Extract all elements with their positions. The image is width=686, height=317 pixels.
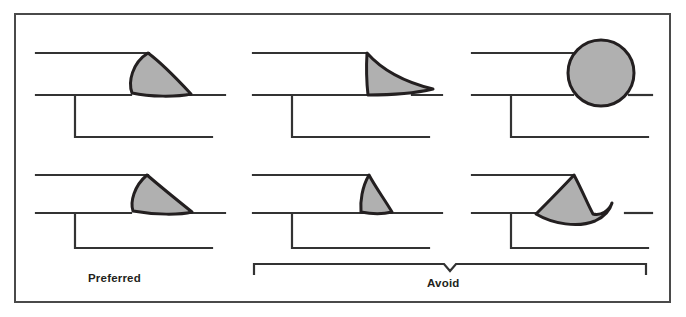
panel-1-joint-lines (36, 53, 225, 137)
bead-narrow-undersized-fillet (361, 175, 392, 214)
panel-5-joint-lines (253, 175, 442, 248)
diagram-artwork (0, 0, 686, 317)
bead-convex-rounded-fillet (131, 53, 191, 96)
avoid-bracket (254, 264, 646, 274)
bead-overlap-undercut-bead (536, 175, 612, 225)
label-preferred: Preferred (88, 272, 141, 284)
bead-concave-undersized-fillet (367, 53, 433, 95)
diagram-canvas: Preferred Avoid (0, 0, 686, 317)
label-avoid: Avoid (427, 277, 460, 289)
panel-4-joint-lines (36, 175, 225, 248)
bead-flat-fillet (132, 175, 192, 214)
panel-2-joint-lines (253, 53, 442, 137)
bead-excessive-convexity-round-bead (568, 40, 634, 106)
